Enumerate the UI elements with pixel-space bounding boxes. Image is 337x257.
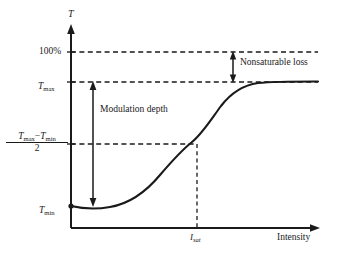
annotation-modulation-depth-label: Modulation depth <box>100 105 168 115</box>
t-half-numerator: Tmax−Tmin <box>6 131 68 143</box>
y-tick-label-t-min: Tmin <box>39 200 55 216</box>
t-min-subscript: min <box>44 209 54 216</box>
y-tick-label-t-half: Tmax−Tmin 2 <box>6 131 68 154</box>
y-axis-arrowhead <box>67 24 75 34</box>
curve-start-marker <box>68 203 73 208</box>
y-tick-label-100-percent: 100% <box>39 47 61 57</box>
saturation-curve <box>71 81 318 208</box>
t-half-denominator: 2 <box>6 143 68 154</box>
t-half-numerator-a-subscript: max <box>24 135 35 142</box>
saturable-absorber-figure: T 100% Tmax Tmax−Tmin 2 Tmin Modulation … <box>0 0 337 257</box>
t-half-numerator-b-subscript: min <box>46 135 56 142</box>
t-max-subscript: max <box>43 85 54 92</box>
t-half-numerator-b-symbol: T <box>40 131 45 141</box>
plot-canvas <box>0 0 337 257</box>
annotation-nonsaturable-loss-label: Nonsaturable loss <box>240 58 308 68</box>
x-tick-label-i-sat: Isat <box>190 233 201 242</box>
t-half-numerator-a-symbol: T <box>18 131 23 141</box>
modulation-depth-arrowhead-down <box>90 198 97 207</box>
i-sat-subscript: sat <box>193 236 201 243</box>
y-axis-title: T <box>68 9 74 19</box>
x-axis-title: Intensity <box>277 233 310 243</box>
y-tick-label-t-max: Tmax <box>38 76 55 92</box>
x-axis-arrowhead <box>310 224 320 232</box>
